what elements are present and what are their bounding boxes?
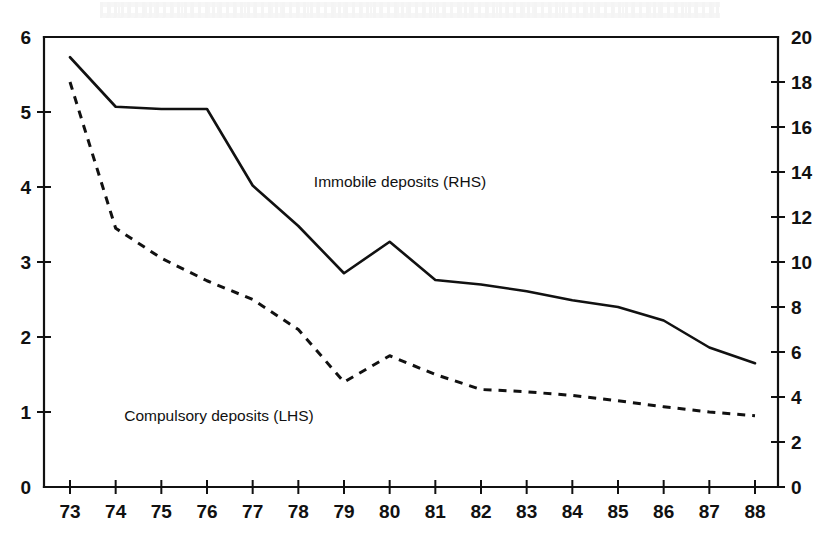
series-line-immobile-deposits <box>70 57 755 363</box>
x-tick-label: 77 <box>242 501 263 522</box>
left-tick-label: 6 <box>20 27 31 48</box>
x-tick-label: 87 <box>699 501 720 522</box>
left-tick-label: 1 <box>20 402 31 423</box>
left-tick-label: 4 <box>20 177 31 198</box>
x-tick-label: 86 <box>653 501 674 522</box>
chart-canvas: 0123456 02468101214161820 73747576777879… <box>0 0 820 537</box>
x-tick-label: 75 <box>151 501 173 522</box>
x-tick-label: 76 <box>196 501 217 522</box>
x-tick-label: 81 <box>425 501 447 522</box>
series-line-compulsory-deposits <box>70 82 755 416</box>
right-tick-label: 18 <box>791 72 812 93</box>
annotation-immobile-deposits: Immobile deposits (RHS) <box>314 173 486 190</box>
right-tick-label: 4 <box>791 387 802 408</box>
chart-figure: 0123456 02468101214161820 73747576777879… <box>0 0 820 537</box>
x-tick-label: 78 <box>288 501 309 522</box>
x-tick-label: 74 <box>105 501 127 522</box>
right-tick-label: 20 <box>791 27 812 48</box>
left-tick-label: 2 <box>20 327 31 348</box>
right-tick-label: 10 <box>791 252 812 273</box>
left-tick-label: 0 <box>20 477 31 498</box>
left-tick-label: 3 <box>20 252 31 273</box>
left-tick-label: 5 <box>20 102 31 123</box>
right-tick-label: 6 <box>791 342 802 363</box>
right-tick-label: 0 <box>791 477 802 498</box>
left-axis-ticks: 0123456 <box>20 27 51 498</box>
x-tick-label: 82 <box>470 501 491 522</box>
x-tick-label: 85 <box>607 501 629 522</box>
x-tick-label: 84 <box>562 501 584 522</box>
right-tick-label: 2 <box>791 432 802 453</box>
right-tick-label: 12 <box>791 207 812 228</box>
x-tick-label: 83 <box>516 501 537 522</box>
x-tick-label: 80 <box>379 501 400 522</box>
right-tick-label: 8 <box>791 297 802 318</box>
x-tick-label: 88 <box>744 501 765 522</box>
right-tick-label: 16 <box>791 117 812 138</box>
annotation-compulsory-deposits: Compulsory deposits (LHS) <box>124 407 314 424</box>
x-tick-label: 73 <box>59 501 80 522</box>
right-tick-label: 14 <box>791 162 813 183</box>
x-tick-label: 79 <box>333 501 354 522</box>
